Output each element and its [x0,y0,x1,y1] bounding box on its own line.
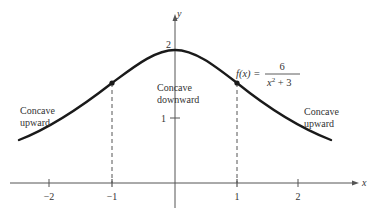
right-region-label-line1: Concave [304,106,340,117]
x-tick-label-1: 1 [235,191,240,202]
x-axis-arrow-icon [352,181,359,186]
x-tick-label-2: 2 [296,191,301,202]
graph-canvas: −2 −1 1 2 1 2 x y Concave upward Concave… [0,0,370,216]
right-region-label-line2: upward [304,118,334,129]
formula-denominator: x2 + 3 [266,76,292,88]
denominator-rest: + 3 [275,77,291,88]
middle-region-label-line2: downward [157,94,199,105]
function-formula: f(x) = 6 x2 + 3 [236,61,300,88]
x-tick-label-neg1: −1 [107,191,118,202]
formula-numerator: 6 [279,61,284,72]
left-region-label-line2: upward [20,117,50,128]
y-tick-label-2: 2 [166,39,171,50]
middle-region-label-line1: Concave [157,82,193,93]
inflection-point-left [109,80,114,85]
x-tick-label-neg2: −2 [44,191,55,202]
inflection-point-right [234,80,239,85]
y-tick-label-1: 1 [161,113,166,124]
y-axis-label: y [176,8,182,19]
x-axis-label: x [361,177,367,188]
left-region-label-line1: Concave [20,105,56,116]
formula-lhs: f(x) = [236,68,260,80]
